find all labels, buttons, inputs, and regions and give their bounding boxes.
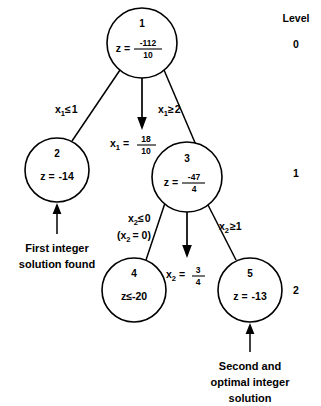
node-5[interactable]: 5 z =-13: [218, 258, 282, 322]
annotation-1-line-1: First integer: [25, 242, 89, 254]
branch-arrow-node-3: [182, 212, 192, 258]
node-1[interactable]: 1 z = -112 10: [107, 8, 177, 78]
annotation-2-line-1: Second and: [219, 360, 281, 372]
edge-label-3-to-4-note: (x2= 0): [117, 229, 151, 244]
node-3-numerator: -47: [188, 172, 201, 182]
node-1-numerator: -112: [140, 38, 157, 48]
annotation-first-integer-solution: First integer solution found: [19, 203, 95, 270]
branch-1-denominator: 10: [141, 146, 151, 156]
annotation-2-line-3: solution: [229, 392, 272, 404]
edge-label-3-to-4: x2≤0 (x2= 0): [117, 212, 151, 244]
node-2[interactable]: 2 z =-14: [25, 138, 89, 202]
annotation-1-arrow-head: [53, 203, 62, 214]
level-label-1: 1: [293, 167, 299, 179]
edge-label-1-to-3: x1≥2: [158, 103, 181, 118]
edge-label-1-to-2: x1≤1: [55, 103, 78, 118]
svg-text:x1=: x1=: [110, 137, 129, 152]
svg-text:x2≤0: x2≤0: [128, 212, 151, 227]
node-1-id: 1: [139, 18, 145, 29]
node-4[interactable]: 4 z≤-20: [102, 258, 166, 322]
annotation-2-arrow-head: [246, 323, 255, 334]
annotation-1-line-2: solution found: [19, 258, 95, 270]
level-label-2: 2: [293, 284, 299, 296]
node-3-denominator: 4: [192, 184, 197, 194]
svg-text:x2=: x2=: [166, 268, 185, 283]
node-3-value-prefix: z =: [164, 176, 178, 188]
edge-3-to-5: [208, 205, 236, 260]
svg-text:x1≥2: x1≥2: [158, 103, 181, 118]
edge-1-to-2: [72, 70, 120, 141]
svg-text:x1≤1: x1≤1: [55, 103, 78, 118]
level-label-0: 0: [293, 38, 299, 50]
level-column-header: Level: [283, 12, 310, 24]
node-4-id: 4: [131, 268, 137, 279]
branch-value-label-node-1: x1= 18 10: [110, 134, 156, 156]
node-5-id: 5: [247, 268, 253, 279]
branch-value-label-node-3: x2= 3 4: [166, 265, 205, 287]
branch-and-bound-tree: 1 z = -112 10 2 z =-14 3 z = -47 4 4 z≤: [0, 0, 321, 406]
node-4-value-text: z≤-20: [121, 290, 147, 302]
node-2-id: 2: [54, 148, 60, 159]
branch-3-numerator: 3: [196, 265, 201, 275]
branch-1-numerator: 18: [141, 134, 151, 144]
annotation-second-optimal-solution: Second and optimal integer solution: [211, 323, 291, 404]
node-1-value-prefix: z =: [116, 42, 130, 54]
branch-arrow-node-1: [137, 78, 147, 130]
level-column: Level 0 1 2: [283, 12, 310, 296]
node-1-denominator: 10: [143, 50, 153, 60]
node-3[interactable]: 3 z = -47 4: [152, 142, 222, 212]
branch-3-denominator: 4: [196, 277, 201, 287]
annotation-2-line-2: optimal integer: [211, 376, 291, 388]
node-3-id: 3: [184, 153, 190, 164]
